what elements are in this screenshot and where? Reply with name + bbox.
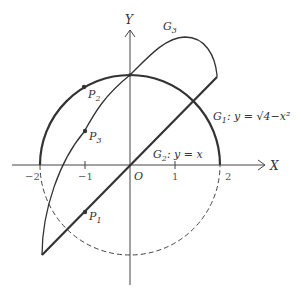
point-p1-label: P1	[88, 210, 102, 225]
tick-label-1: 1	[172, 171, 178, 182]
function-diagram: Y X O −2 −1 1 2 G3 G1: y = √4−x² G2: y =…	[0, 0, 301, 294]
intersection-top-dot	[128, 73, 132, 77]
origin-label: O	[134, 170, 143, 183]
point-p3-label: P3	[88, 130, 102, 145]
tick-label-neg1: −1	[78, 171, 93, 182]
point-p2-dot	[82, 85, 86, 89]
g3-label: G3	[163, 20, 177, 35]
tick-label-2: 2	[225, 171, 231, 182]
g2-label: G2: y = x	[153, 148, 204, 163]
y-axis-label: Y	[125, 13, 134, 27]
tick-label-neg2: −2	[25, 171, 40, 182]
point-p3-dot	[83, 129, 87, 133]
x-axis-label: X	[269, 159, 279, 173]
point-p2-label: P2	[87, 88, 101, 103]
g1-label: G1: y = √4−x²	[213, 110, 290, 125]
point-p1-dot	[83, 210, 87, 214]
